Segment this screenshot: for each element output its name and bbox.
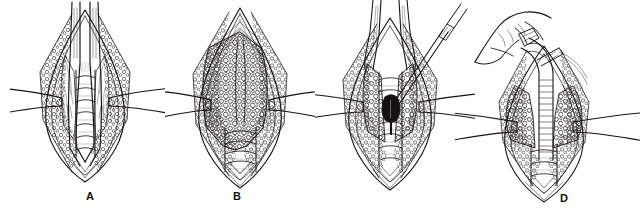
figure-root: A B D: [0, 0, 640, 219]
panel-d: [455, 0, 640, 219]
panel-d-illustration: [455, 0, 640, 219]
panel-a: [10, 0, 165, 219]
panel-c: [315, 0, 475, 219]
panel-b: [165, 0, 315, 219]
panel-label-b: B: [233, 191, 241, 202]
panel-label-a: A: [86, 191, 94, 202]
panel-c-illustration: [315, 0, 475, 219]
panel-a-illustration: [10, 0, 165, 219]
panel-label-d: D: [560, 193, 568, 204]
panel-b-illustration: [165, 0, 315, 219]
